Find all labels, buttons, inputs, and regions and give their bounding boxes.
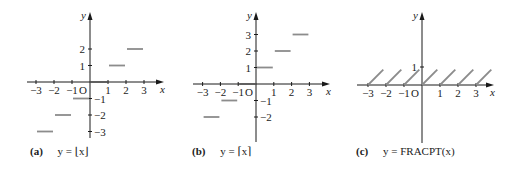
sawtooth-segment — [458, 70, 473, 85]
sawtooth-segment — [368, 70, 383, 85]
caption-c: (c) y = FRACPT(x) — [356, 145, 455, 157]
x-tick-label: 2 — [289, 86, 295, 98]
chart-floor-function: xyO−3−2−1123−3−2−112 — [27, 9, 165, 138]
x-tick-label: −1 — [232, 86, 244, 98]
origin-label: O — [79, 84, 87, 96]
caption-equation: y = ⌊x⌋ — [58, 145, 89, 157]
x-tick-label: −2 — [215, 86, 227, 98]
sawtooth-segment — [440, 70, 455, 85]
sawtooth-segment — [422, 70, 437, 85]
y-tick-label: 1 — [80, 60, 86, 72]
caption-tag: (a) — [30, 145, 43, 157]
x-tick-label: 2 — [123, 84, 129, 96]
x-tick-label: −3 — [30, 84, 42, 96]
figure-canvas: xyO−3−2−1123−3−2−112 xyO−3−2−1123−2−1123… — [0, 0, 515, 169]
y-axis-arrow-icon — [420, 12, 425, 20]
y-tick-label: 1 — [412, 61, 418, 73]
x-tick-label: 2 — [455, 87, 461, 99]
x-tick-label: 3 — [307, 86, 313, 98]
y-axis-arrow-icon — [88, 12, 93, 20]
y-tick-label: −2 — [260, 111, 272, 123]
y-axis-label: y — [80, 9, 86, 21]
x-tick-label: −1 — [398, 87, 410, 99]
x-axis-label: x — [489, 86, 495, 98]
y-tick-label: −1 — [94, 93, 106, 105]
x-tick-label: 1 — [271, 86, 277, 98]
y-axis-arrow-icon — [254, 12, 259, 20]
x-tick-label: 3 — [473, 87, 479, 99]
caption-b: (b) y = ⌈x⌉ — [192, 145, 252, 158]
x-tick-label: −3 — [362, 87, 374, 99]
x-tick-label: −3 — [197, 86, 209, 98]
x-tick-label: −2 — [380, 87, 392, 99]
caption-a: (a) y = ⌊x⌋ — [30, 145, 89, 158]
x-axis-label: x — [159, 83, 165, 95]
origin-label: O — [411, 87, 419, 99]
y-tick-label: 1 — [246, 62, 252, 74]
caption-equation: y = ⌈x⌉ — [220, 145, 251, 157]
x-tick-label: −2 — [48, 84, 60, 96]
y-axis-label: y — [246, 9, 252, 21]
y-tick-label: −1 — [260, 95, 272, 107]
sawtooth-segment — [386, 70, 401, 85]
y-tick-label: 3 — [246, 29, 252, 41]
y-axis-label: y — [412, 9, 418, 21]
y-tick-label: 2 — [80, 43, 86, 55]
y-tick-label: −3 — [94, 126, 106, 138]
sawtooth-segment — [476, 70, 491, 85]
x-axis-label: x — [325, 85, 331, 97]
caption-tag: (b) — [192, 145, 205, 157]
x-tick-label: 1 — [437, 87, 443, 99]
x-tick-label: −1 — [66, 84, 78, 96]
origin-label: O — [245, 86, 253, 98]
caption-tag: (c) — [356, 145, 368, 157]
x-tick-label: 3 — [141, 84, 147, 96]
y-tick-label: −2 — [94, 109, 106, 121]
caption-equation: y = FRACPT(x) — [383, 145, 455, 157]
chart-fractional-part-function: xyO−3−2−11231 — [357, 9, 495, 143]
x-tick-label: 1 — [105, 84, 111, 96]
y-tick-label: 2 — [246, 45, 252, 57]
chart-ceiling-function: xyO−3−2−1123−2−1123 — [193, 9, 331, 142]
